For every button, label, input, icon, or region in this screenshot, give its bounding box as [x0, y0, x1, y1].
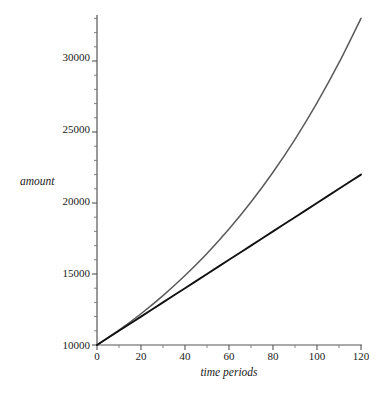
y-tick-label-20000: 20000	[63, 195, 91, 207]
chart-screenshot: 10000 15000 20000 25000 30000 0 20 40 60…	[0, 0, 385, 394]
x-axis-title: time periods	[200, 366, 258, 379]
y-tick-label-10000: 10000	[63, 339, 91, 351]
x-tick-label-20: 20	[136, 350, 148, 362]
x-tick-label-100: 100	[309, 350, 326, 362]
x-tick-label-40: 40	[180, 350, 192, 362]
y-axis-title: amount	[20, 175, 55, 187]
x-tick-label-120: 120	[353, 350, 370, 362]
series-line-compound-interest	[97, 18, 361, 345]
y-tick-label-30000: 30000	[63, 51, 91, 63]
y-tick-label-25000: 25000	[63, 123, 91, 135]
y-tick-label-15000: 15000	[63, 267, 91, 279]
series-line-simple-interest	[97, 175, 361, 345]
y-axis-ticks	[92, 18, 97, 345]
x-tick-label-0: 0	[94, 350, 100, 362]
x-tick-label-60: 60	[224, 350, 236, 362]
x-tick-label-80: 80	[268, 350, 280, 362]
line-chart: 10000 15000 20000 25000 30000 0 20 40 60…	[0, 0, 385, 394]
